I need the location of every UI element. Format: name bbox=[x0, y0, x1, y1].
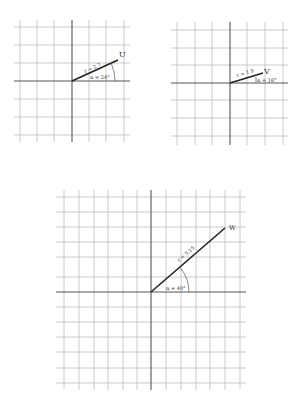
vector-label-v: V bbox=[263, 67, 270, 76]
polar-vectors-figure: U r = 2.7 α = 24° V r = 1.9 α = 16° bbox=[0, 0, 305, 412]
r-label-w: r = 5.15 bbox=[176, 245, 196, 263]
alpha-label-u: α = 24° bbox=[90, 74, 110, 80]
alpha-label-w: α = 40° bbox=[166, 285, 186, 291]
vector-label-u: U bbox=[119, 50, 126, 59]
angle-arc-u bbox=[111, 64, 115, 82]
diagram-v: V r = 1.9 α = 16° bbox=[171, 22, 288, 145]
diagram-u: U r = 2.7 α = 24° bbox=[14, 20, 130, 142]
diagram-w: W r = 5.15 α = 40° bbox=[56, 190, 246, 390]
vector-label-w: W bbox=[229, 224, 236, 232]
alpha-label-v: α = 16° bbox=[257, 77, 277, 83]
